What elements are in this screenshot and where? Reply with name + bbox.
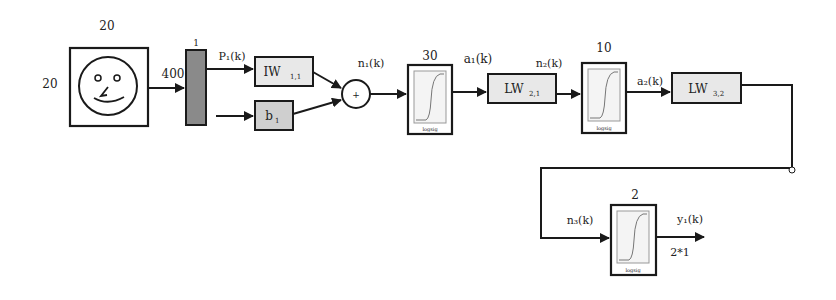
b1-main: b [265, 109, 273, 123]
svg-text:LW: LW [504, 82, 524, 96]
iw11-main: IW [263, 65, 281, 79]
iw11-sub: 1,1 [290, 73, 301, 81]
lw21-sub: 2,1 [529, 90, 540, 98]
tf1-caption: logsig [422, 126, 438, 133]
signal-n3: n₃(k) [567, 214, 594, 227]
neural-network-diagram: 20 20 400 1 P₁(k) IW 1,1 b 1 + n₁(k) log… [0, 0, 836, 300]
svg-text:IW: IW [263, 65, 281, 79]
svg-text:LW: LW [688, 82, 708, 96]
svg-text:b: b [265, 109, 273, 123]
transfer-function-layer3: logsig [611, 205, 656, 275]
svg-text:1,1: 1,1 [290, 73, 301, 81]
signal-n2: n₂(k) [536, 57, 563, 70]
tf3-caption: logsig [625, 267, 641, 274]
layer1-size: 30 [422, 49, 437, 63]
signal-a1: a₁(k) [464, 52, 493, 66]
mux-label: 1 [193, 38, 199, 48]
mux-block [186, 50, 206, 125]
signal-y1: y₁(k) [676, 213, 703, 226]
junction-point [789, 167, 795, 173]
connector-iw-to-sum [313, 72, 341, 88]
transfer-function-layer2: logsig [582, 63, 626, 133]
sum-junction: + [342, 80, 370, 108]
lw21-block: LW 2,1 [488, 74, 556, 103]
signal-p1: P₁(k) [218, 50, 245, 63]
lw32-main: LW [688, 82, 708, 96]
svg-text:3,2: 3,2 [713, 90, 724, 98]
svg-text:1: 1 [275, 117, 279, 125]
layer2-size: 10 [596, 41, 611, 55]
sum-symbol: + [352, 90, 360, 100]
signal-a2: a₂(k) [637, 75, 663, 88]
signal-n1: n₁(k) [358, 57, 385, 70]
tf2-caption: logsig [596, 125, 612, 132]
connector-bias-to-sum [293, 100, 341, 114]
lw32-sub: 3,2 [713, 90, 724, 98]
lw32-block: LW 3,2 [672, 73, 741, 103]
image-width-label: 20 [99, 19, 114, 33]
b1-sub: 1 [275, 117, 279, 125]
flattened-size-label: 400 [162, 67, 185, 81]
transfer-function-layer1: logsig [408, 65, 452, 134]
iw11-block: IW 1,1 [255, 57, 313, 86]
image-height-label: 20 [42, 77, 57, 91]
input-image-block [70, 48, 148, 126]
lw21-main: LW [504, 82, 524, 96]
layer3-size: 2 [631, 188, 639, 202]
output-size-label: 2*1 [670, 246, 690, 259]
bias-b1-block: b 1 [255, 101, 293, 130]
svg-text:2,1: 2,1 [529, 90, 540, 98]
